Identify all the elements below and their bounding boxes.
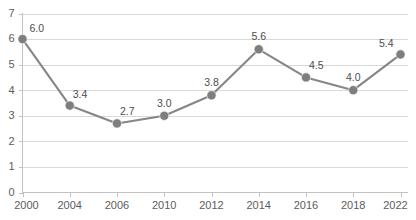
data-point-label: 5.4	[379, 37, 394, 49]
x-axis-label: 2010	[152, 199, 176, 211]
data-point	[112, 119, 121, 128]
x-axis-ticks	[24, 193, 402, 197]
data-point-label: 6.0	[30, 22, 45, 34]
data-point-label: 2.7	[120, 105, 135, 117]
data-point	[349, 86, 358, 95]
x-axis-label: 2018	[341, 199, 365, 211]
data-point-label: 3.8	[204, 76, 219, 88]
data-point-label: 4.5	[309, 59, 324, 71]
data-point	[396, 50, 405, 59]
y-axis-label: 2	[8, 135, 14, 147]
data-point-label: 3.4	[73, 88, 88, 100]
data-point	[160, 111, 169, 120]
x-axis-label: 2000	[14, 199, 38, 211]
x-axis-label: 2004	[58, 199, 82, 211]
data-point-labels: 6.03.42.73.03.85.64.54.05.4	[30, 22, 394, 117]
x-axis-labels: 200020042006201020122014201620182022	[14, 199, 407, 211]
chart-plot-area: 01234567 2000200420062010201220142016201…	[0, 0, 416, 220]
x-axis-label: 2014	[247, 199, 271, 211]
data-point	[65, 101, 74, 110]
y-axis-label: 1	[8, 160, 14, 172]
data-point	[207, 91, 216, 100]
line-chart: 01234567 2000200420062010201220142016201…	[0, 0, 416, 220]
y-axis-label: 0	[8, 186, 14, 198]
y-axis-label: 5	[8, 58, 14, 70]
x-axis-label: 2016	[294, 199, 318, 211]
data-point-label: 3.0	[157, 97, 172, 109]
x-axis-label: 2006	[105, 199, 129, 211]
data-point	[18, 34, 27, 43]
y-axis-label: 6	[8, 32, 14, 44]
y-axis-label: 7	[8, 7, 14, 19]
data-point	[301, 73, 310, 82]
y-axis-label: 4	[8, 84, 14, 96]
data-point-label: 4.0	[346, 71, 361, 83]
y-axis-label: 3	[8, 109, 14, 121]
data-point-label: 5.6	[251, 30, 266, 42]
data-point	[254, 45, 263, 54]
y-axis-labels: 01234567	[8, 7, 14, 198]
x-axis-label: 2012	[199, 199, 223, 211]
x-axis-label: 2022	[383, 199, 407, 211]
